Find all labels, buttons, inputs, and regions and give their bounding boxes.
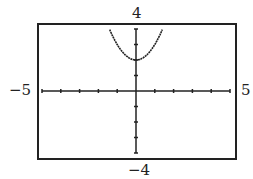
graph: [0, 0, 253, 179]
